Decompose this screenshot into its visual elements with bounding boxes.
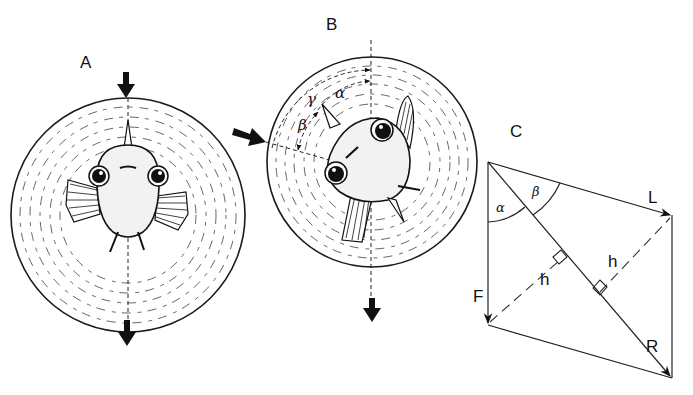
gamma-label: γ: [307, 90, 316, 108]
panel-a: A: [11, 53, 245, 346]
parallelogram-bottom-side: [488, 325, 672, 378]
height-label-2: h: [608, 252, 617, 271]
panel-b-label: B: [326, 15, 337, 34]
height-label-1: h: [540, 270, 549, 289]
vector-r-label: R: [646, 337, 658, 356]
panel-c-label: C: [510, 122, 522, 141]
vector-l-label: L: [648, 188, 657, 207]
lateral-arrow-icon: [232, 128, 266, 146]
down-arrow-icon: [117, 72, 135, 98]
height-line-f: [490, 260, 560, 322]
panel-c: C α β L F R h h: [473, 122, 672, 378]
beta-label: β: [297, 116, 307, 134]
panel-b: B γ α β: [232, 15, 477, 322]
vector-l: [488, 162, 670, 215]
panel-a-label: A: [80, 53, 92, 72]
vector-f-label: F: [473, 287, 483, 306]
force-diagram-figure: A: [0, 0, 693, 395]
angle-beta-label: β: [531, 184, 540, 199]
down-arrow-icon: [363, 298, 381, 322]
vector-r: [488, 162, 670, 376]
alpha-angle-arc: [488, 207, 525, 222]
angle-alpha-label: α: [496, 200, 505, 215]
alpha-label: α: [335, 84, 345, 102]
